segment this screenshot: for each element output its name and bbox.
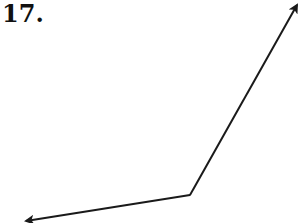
angle-diagram — [0, 0, 308, 223]
upper-ray — [190, 5, 297, 195]
lower-ray — [26, 195, 190, 221]
vertex-point — [189, 194, 191, 196]
